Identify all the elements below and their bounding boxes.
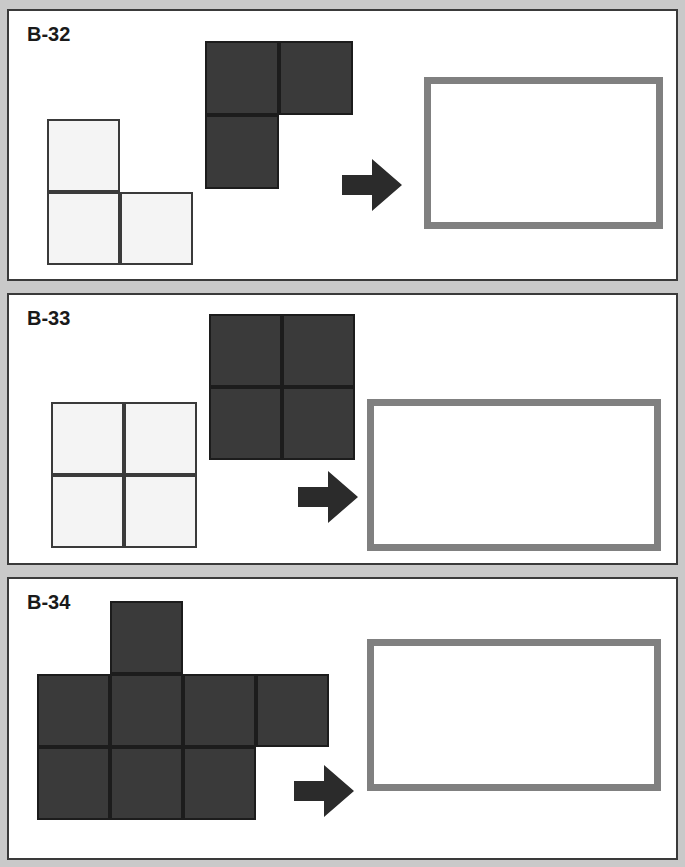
worksheet-page: B-32B-33B-34 [0,0,685,867]
polyomino-cell [110,601,183,674]
polyomino-cell [183,747,256,820]
polyomino-cell [47,119,120,192]
target-rectangle [367,639,661,791]
polyomino-cell [209,387,282,460]
polyomino-cell [120,192,193,265]
polyomino-cell [37,674,110,747]
polyomino-cell [124,475,197,548]
polyomino-cell [209,314,282,387]
polyomino-cell [279,41,353,115]
polyomino-cell [110,674,183,747]
polyomino-cell [110,747,183,820]
polyomino-cell [51,475,124,548]
target-rectangle [424,77,663,229]
panel-b-33: B-33 [7,293,678,565]
panel-b-34: B-34 [7,577,678,860]
panel-b-32: B-32 [7,9,678,281]
polyomino-cell [282,314,355,387]
arrow-right-icon [294,763,354,819]
arrow-right-icon [298,469,358,525]
panel-label: B-32 [27,23,70,46]
panel-label: B-33 [27,307,70,330]
polyomino-cell [37,747,110,820]
polyomino-cell [47,192,120,265]
polyomino-cell [282,387,355,460]
target-rectangle [367,399,661,551]
polyomino-cell [51,402,124,475]
polyomino-cell [205,115,279,189]
panel-label: B-34 [27,591,70,614]
polyomino-cell [183,674,256,747]
polyomino-cell [256,674,329,747]
polyomino-cell [124,402,197,475]
polyomino-cell [205,41,279,115]
arrow-right-icon [342,157,402,213]
